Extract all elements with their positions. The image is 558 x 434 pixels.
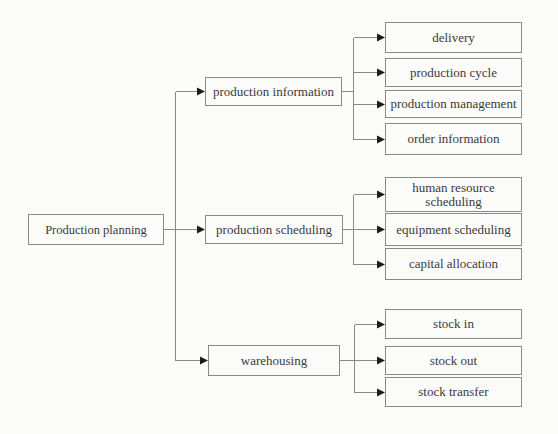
arrowhead-icon: [377, 389, 385, 397]
arrowhead-icon: [377, 321, 385, 329]
diagram-canvas: Production planning production informati…: [0, 0, 558, 434]
arrowhead-icon: [377, 191, 385, 199]
arrowhead-icon: [377, 226, 385, 234]
child-node-production-management: production management: [385, 90, 522, 118]
arrowhead-icon: [197, 88, 205, 96]
child-node-human-resource-scheduling: human resource scheduling: [385, 177, 522, 212]
parent-node-warehousing: warehousing: [208, 345, 340, 376]
arrowhead-icon: [377, 34, 385, 42]
parent-node-production-information: production information: [205, 77, 342, 106]
child-node-stock-in: stock in: [385, 309, 522, 339]
child-node-equipment-scheduling: equipment scheduling: [385, 213, 522, 246]
arrowhead-icon: [377, 69, 385, 77]
child-node-delivery: delivery: [385, 22, 522, 53]
child-node-production-cycle: production cycle: [385, 58, 522, 87]
arrowhead-icon: [377, 261, 385, 269]
child-node-order-information: order information: [385, 123, 522, 155]
child-node-stock-out: stock out: [385, 346, 522, 375]
child-node-stock-transfer: stock transfer: [385, 377, 522, 407]
arrowhead-icon: [197, 226, 205, 234]
arrowhead-icon: [377, 101, 385, 109]
child-node-capital-allocation: capital allocation: [385, 248, 522, 280]
arrowhead-icon: [377, 357, 385, 365]
arrowhead-icon: [200, 357, 208, 365]
root-node-production-planning: Production planning: [28, 214, 164, 245]
arrowhead-icon: [377, 136, 385, 144]
parent-node-production-scheduling: production scheduling: [205, 215, 343, 244]
